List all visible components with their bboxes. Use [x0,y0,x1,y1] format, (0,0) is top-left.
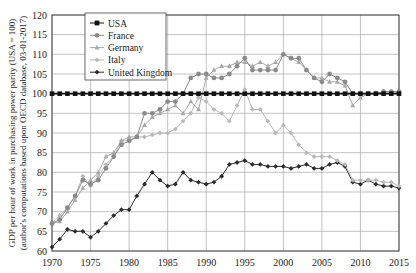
marker-diamond [381,180,386,185]
marker-diamond [312,166,317,171]
marker-circle [173,99,178,104]
marker-square [350,91,355,96]
marker-square [327,91,332,96]
marker-circle [73,194,78,199]
marker-circle [335,76,340,81]
marker-triangle [96,170,101,175]
legend-label: United Kingdom [108,68,173,78]
marker-diamond [235,160,240,165]
marker-triangle [258,59,263,64]
legend-label: Italy [108,55,126,65]
series-line [52,90,399,224]
marker-diamond [296,164,301,169]
marker-diamond [258,162,263,167]
marker-circle [242,56,247,61]
marker-square [173,91,178,96]
marker-diamond [289,166,294,171]
marker-square [127,91,132,96]
marker-circle [289,56,294,61]
marker-square [104,91,109,96]
marker-diamond [319,166,324,171]
marker-square [150,91,155,96]
marker-diamond [366,178,371,183]
legend: USAFranceGermanyItalyUnited Kingdom [85,13,173,80]
marker-square [289,91,294,96]
marker-circle [188,76,193,81]
marker-circle [142,111,147,116]
y-tick-label: 60 [37,246,47,257]
marker-square [358,91,363,96]
marker-square [212,91,217,96]
marker-circle [281,52,286,57]
legend-label: Germany [108,43,144,53]
marker-circle [312,76,317,81]
marker-square [135,91,140,96]
x-tick-label: 2000 [273,257,293,268]
y-axis-label-line1: GDP per hour of work in purchasing power… [7,19,17,247]
marker-circle [165,99,170,104]
marker-diamond [389,180,394,185]
marker-diamond [266,164,271,169]
marker-square [204,91,209,96]
marker-square [165,91,170,96]
y-axis-ticks: 6065707580859095100105110115120 [32,10,47,257]
marker-square [96,91,101,96]
marker-square [296,91,301,96]
marker-diamond [273,164,278,169]
marker-square [65,91,70,96]
marker-circle [266,68,271,73]
marker-square [95,21,100,26]
y-tick-label: 80 [37,167,47,178]
marker-circle [327,72,332,77]
marker-square [227,91,232,96]
y-tick-label: 70 [37,206,47,217]
marker-diamond [73,229,78,234]
marker-circle [235,64,240,69]
marker-circle [80,178,85,183]
marker-square [50,91,55,96]
marker-diamond [235,103,240,108]
y-tick-label: 95 [37,108,47,119]
marker-circle [88,182,93,187]
marker-circle [50,221,55,226]
x-axis-ticks: 1970197519801985199019952000200520102015 [42,257,409,268]
x-tick-label: 1970 [42,257,62,268]
marker-circle [104,166,109,171]
marker-diamond [327,154,332,159]
marker-square [81,91,86,96]
marker-square [273,91,278,96]
x-tick-label: 1985 [158,257,178,268]
marker-circle [96,178,101,183]
legend-label: France [108,31,134,41]
chart: 6065707580859095100105110115120 19701975… [0,0,416,273]
marker-circle [343,79,348,84]
y-tick-label: 110 [32,49,47,60]
marker-square [366,91,371,96]
marker-diamond [373,178,378,183]
marker-square [189,91,194,96]
legend-label: USA [108,19,127,29]
marker-circle [158,107,163,112]
marker-diamond [281,164,286,169]
y-tick-label: 105 [32,69,47,80]
marker-diamond [250,107,255,112]
marker-diamond [312,154,317,159]
marker-square [88,91,93,96]
marker-square [235,91,240,96]
y-tick-label: 115 [32,29,47,40]
x-tick-label: 1980 [119,257,139,268]
marker-circle [119,142,124,147]
x-tick-label: 1990 [196,257,216,268]
marker-square [250,91,255,96]
marker-circle [111,154,116,159]
y-tick-label: 120 [32,10,47,21]
series-line [52,161,399,248]
marker-circle [258,68,263,73]
marker-square [389,91,394,96]
marker-square [397,91,402,96]
marker-square [219,91,224,96]
x-tick-label: 2005 [312,257,332,268]
marker-square [119,91,124,96]
marker-square [73,91,78,96]
x-tick-label: 1975 [81,257,101,268]
